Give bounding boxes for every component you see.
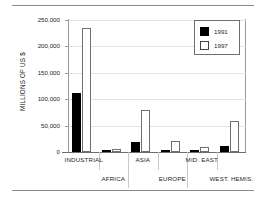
y-tick-label-wrap: 250,000: [14, 16, 60, 24]
bar-1997-west-hemis: [230, 121, 239, 152]
y-tick-label: 50,000: [14, 122, 60, 129]
bar-1991-europe: [161, 150, 170, 152]
legend-swatch-icon-1997: [200, 41, 209, 50]
bar-1997-europe: [171, 141, 180, 152]
category-separator: [128, 152, 129, 188]
bar-1991-africa: [102, 150, 111, 152]
y-tick-label-wrap: 100,000: [14, 95, 60, 103]
chart-figure: MILLIONS OF US $ 050,000100,000150,00020…: [0, 0, 266, 200]
y-tick-label: 200,000: [14, 42, 60, 49]
category-label-industrial: INDUSTRIAL: [65, 156, 103, 163]
x-axis-baseline: [62, 152, 246, 153]
category-label-africa: AFRICA: [101, 175, 125, 182]
top-divider-rule: [12, 5, 254, 6]
bottom-divider-rule: [12, 190, 254, 191]
y-tick-label-wrap: 200,000: [14, 42, 60, 50]
bar-1997-industrial: [82, 28, 91, 152]
category-separator: [158, 152, 159, 170]
y-tick-label-wrap: 0: [14, 148, 60, 156]
category-label-europe: EUROPE: [159, 175, 186, 182]
bar-1997-asia: [141, 110, 150, 152]
category-label-west-hemis: WEST. HEMIS.: [209, 175, 253, 182]
bar-1997-mid-east: [200, 147, 209, 152]
gridline: [69, 99, 246, 100]
bar-1991-mid-east: [190, 150, 199, 152]
y-tick-label-wrap: 50,000: [14, 122, 60, 130]
y-tick-label: 150,000: [14, 69, 60, 76]
gridline: [69, 126, 246, 127]
bar-1991-west-hemis: [220, 146, 229, 152]
y-tick-label: 0: [14, 148, 60, 155]
legend-swatch-icon-1991: [200, 27, 209, 36]
gridline: [69, 73, 246, 74]
legend-label-1991: 1991: [214, 28, 228, 35]
bar-1991-asia: [131, 142, 140, 152]
chart-legend: 1991 1997: [194, 20, 240, 55]
category-label-asia: ASIA: [135, 156, 150, 163]
y-tick-label: 250,000: [14, 16, 60, 23]
category-label-mid-east: MID. EAST: [186, 156, 218, 163]
legend-label-1997: 1997: [214, 42, 228, 49]
y-tick-label: 100,000: [14, 95, 60, 102]
bar-1991-industrial: [72, 93, 81, 152]
y-tick-label-wrap: 150,000: [14, 69, 60, 77]
bar-1997-africa: [112, 149, 121, 152]
